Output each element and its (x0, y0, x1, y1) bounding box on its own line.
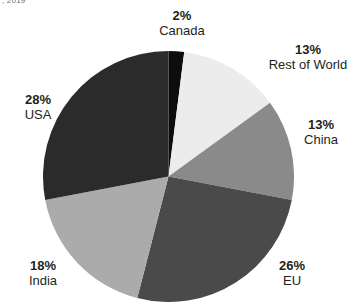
pie-label-eu-name: EU (262, 273, 322, 289)
pie-label-china-name: China (290, 132, 352, 148)
pie-label-canada-name: Canada (136, 23, 228, 39)
pie-label-usa: 28% USA (3, 92, 73, 123)
pie-label-india-value: 18% (8, 258, 78, 273)
chart-canvas: , 2019 2% Canada 13% Rest of World 13% C… (0, 0, 355, 308)
pie-label-india: 18% India (8, 258, 78, 289)
pie-label-canada-value: 2% (136, 8, 228, 23)
pie-label-eu: 26% EU (262, 258, 322, 289)
pie-slice-group (43, 51, 294, 302)
pie-label-canada: 2% Canada (136, 8, 228, 39)
pie-label-eu-value: 26% (262, 258, 322, 273)
chart-title-fragment: , 2019 (2, 0, 25, 6)
pie-label-china-value: 13% (290, 117, 352, 132)
pie-label-usa-value: 28% (3, 92, 73, 107)
pie-label-india-name: India (8, 273, 78, 289)
pie-label-rest-of-world-name: Rest of World (262, 57, 354, 73)
pie-chart-svg (43, 51, 294, 302)
pie-label-rest-of-world: 13% Rest of World (262, 42, 354, 73)
pie-label-usa-name: USA (3, 107, 73, 123)
pie-chart (43, 51, 294, 302)
pie-slice-usa[interactable] (43, 51, 169, 200)
pie-label-china: 13% China (290, 117, 352, 148)
pie-label-rest-of-world-value: 13% (262, 42, 354, 57)
